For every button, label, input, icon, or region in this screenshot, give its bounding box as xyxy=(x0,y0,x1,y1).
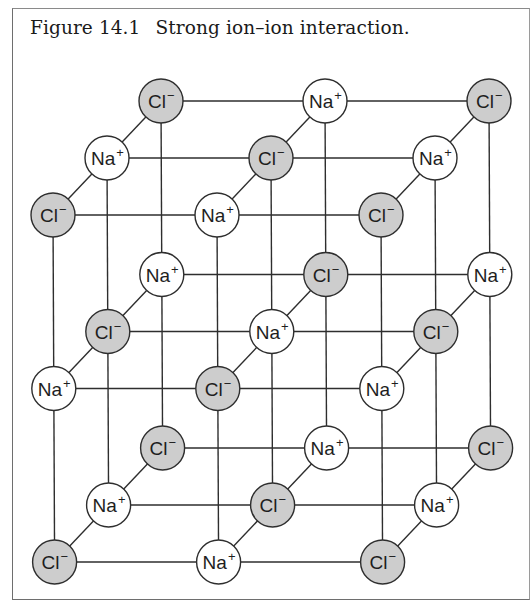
chloride-ion: Cl− xyxy=(251,483,295,527)
sodium-ion: Na+ xyxy=(250,310,294,354)
sodium-ion: Na+ xyxy=(85,136,129,180)
bond-line xyxy=(54,389,55,563)
sodium-ion: Na+ xyxy=(195,193,239,237)
sodium-ion: Na+ xyxy=(32,367,76,411)
chloride-ion: Cl− xyxy=(31,193,75,237)
chloride-ion: Cl− xyxy=(33,540,77,584)
sodium-ion: Na+ xyxy=(415,483,459,527)
bond-line xyxy=(162,275,163,449)
sodium-ion: Na+ xyxy=(413,136,457,180)
bond-line xyxy=(53,215,54,389)
bond-line xyxy=(108,332,109,506)
bond-line xyxy=(489,101,490,275)
sodium-ion: Na+ xyxy=(303,79,347,123)
chloride-ion: Cl− xyxy=(196,367,240,411)
bond-line xyxy=(218,389,219,563)
sodium-ion: Na+ xyxy=(360,367,404,411)
chloride-ion: Cl− xyxy=(361,540,405,584)
ions: Cl−Na+Cl−Na+Cl−Na+Cl−Na+Cl−Na+Cl−Na+Cl−N… xyxy=(31,79,513,584)
sodium-ion: Na+ xyxy=(468,253,512,297)
bond-line xyxy=(381,215,382,389)
chloride-ion: Cl− xyxy=(467,79,511,123)
chloride-ion: Cl− xyxy=(469,426,513,470)
chloride-ion: Cl− xyxy=(249,136,293,180)
chloride-ion: Cl− xyxy=(304,253,348,297)
sodium-ion: Na+ xyxy=(197,540,241,584)
chloride-ion: Cl− xyxy=(414,310,458,354)
bond-line xyxy=(107,158,108,332)
chloride-ion: Cl− xyxy=(359,193,403,237)
chloride-ion: Cl− xyxy=(86,310,130,354)
bond-line xyxy=(272,332,273,506)
bond-line xyxy=(382,389,383,563)
bond-line xyxy=(326,275,327,449)
sodium-ion: Na+ xyxy=(87,483,131,527)
sodium-ion: Na+ xyxy=(305,426,349,470)
sodium-ion: Na+ xyxy=(140,253,184,297)
bond-line xyxy=(161,101,162,275)
nacl-lattice-diagram: Cl−Na+Cl−Na+Cl−Na+Cl−Na+Cl−Na+Cl−Na+Cl−N… xyxy=(0,0,532,609)
bond-line xyxy=(490,275,491,449)
bond-line xyxy=(271,158,272,332)
chloride-ion: Cl− xyxy=(139,79,183,123)
bond-line xyxy=(435,158,436,332)
bond-line xyxy=(217,215,218,389)
bond-line xyxy=(325,101,326,275)
chloride-ion: Cl− xyxy=(141,426,185,470)
bond-line xyxy=(436,332,437,506)
